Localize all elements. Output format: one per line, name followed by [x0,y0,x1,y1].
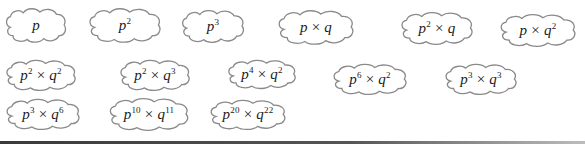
cloud-p20xq22: p20×q22 [208,98,288,131]
cloud-expression: p [32,17,40,34]
base-q: q [378,71,386,87]
exponent-q: 2 [57,66,62,76]
base-q: q [448,20,456,36]
cloud-p3: p3 [180,8,246,44]
exponent-p: 6 [357,70,362,80]
exponent-p: 3 [215,17,220,27]
times-symbol: × [145,106,154,122]
cloud-p3xq3: p3×q3 [443,62,519,96]
base-q: q [489,71,497,87]
base-p: p [119,17,127,33]
exponent-p: 3 [468,70,473,80]
base-q: q [49,67,57,83]
times-symbol: × [244,106,253,122]
base-p: p [207,18,215,34]
exponent-q: 6 [59,105,64,115]
exponent-p: 20 [230,105,239,115]
exponent-p: 2 [142,66,147,76]
exponent-p: 2 [127,16,132,26]
times-symbol: × [531,22,540,38]
base-p: p [300,19,308,35]
cloud-expression: p20×q22 [223,106,274,123]
exponent-q: 22 [264,105,273,115]
exponent-q: 11 [165,105,174,115]
exponent-p: 3 [30,105,35,115]
base-p: p [460,71,468,87]
cloud-expression: p4×q2 [241,66,282,83]
base-p: p [241,66,249,82]
cloud-expression: p2 [119,17,131,34]
exponent-p: 2 [426,19,431,29]
base-p: p [22,106,30,122]
base-q: q [256,106,264,122]
bottom-divider [0,141,585,144]
times-symbol: × [37,67,46,83]
times-symbol: × [39,106,48,122]
cloud-expression: p6×q2 [349,71,390,88]
cloud-expression: p×q [300,19,332,36]
exponent-q: 3 [497,70,502,80]
exponent-p: 10 [131,105,140,115]
times-symbol: × [151,67,160,83]
cloud-p4xq2: p4×q2 [226,58,298,90]
cloud-p2xq: p2×q [399,10,475,46]
cloud-p2xq3: p2×q3 [118,58,192,92]
times-symbol: × [366,71,375,87]
base-p: p [32,17,40,33]
exponent-p: 2 [28,66,33,76]
exponent-q: 2 [386,70,391,80]
base-p: p [134,67,142,83]
times-symbol: × [435,20,444,36]
times-symbol: × [312,19,321,35]
base-q: q [544,22,552,38]
cloud-pxq2: p×q2 [498,12,578,48]
base-p: p [20,67,28,83]
exponent-q: 2 [552,21,557,31]
cloud-expression: p3×q3 [460,71,501,88]
cloud-expression: p2×q [419,20,456,37]
exponent-q: 3 [171,66,176,76]
cloud-pxq: p×q [276,8,356,46]
cloud-p2: p2 [87,6,163,44]
cloud-expression: p10×q11 [124,106,175,123]
cloud-p: p [4,6,68,44]
cloud-expression: p2×q3 [134,67,175,84]
cloud-p2xq2: p2×q2 [4,58,78,92]
cloud-p3xq6: p3×q6 [4,97,82,131]
base-q: q [270,66,278,82]
base-q: q [163,67,171,83]
cloud-expression: p2×q2 [20,67,61,84]
exponent-q: 2 [278,65,283,75]
base-p: p [349,71,357,87]
cloud-expression: p3×q6 [22,106,63,123]
base-p: p [520,22,528,38]
cloud-expression: p×q2 [520,22,557,39]
cloud-expression: p3 [207,18,219,35]
exponent-p: 4 [249,65,254,75]
base-q: q [51,106,59,122]
times-symbol: × [258,66,267,82]
base-q: q [324,19,332,35]
times-symbol: × [477,71,486,87]
cloud-p6xq2: p6×q2 [331,62,409,96]
cloud-p10xq11: p10×q11 [107,96,191,132]
